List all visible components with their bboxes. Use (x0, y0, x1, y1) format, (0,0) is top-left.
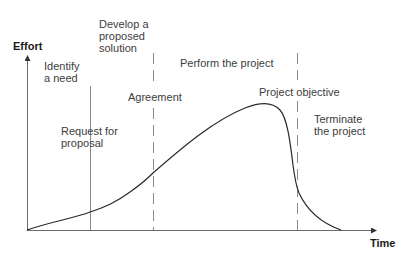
phase-develop-solution: Develop a proposed solution (99, 18, 149, 54)
phase-identify-need: Identify a need (44, 60, 79, 84)
phase-perform-project: Perform the project (180, 57, 274, 69)
milestone-project-objective: Project objective (259, 86, 340, 98)
milestone-agreement: Agreement (128, 91, 182, 103)
milestone-request-for-proposal: Request for proposal (61, 125, 118, 149)
phase-terminate-project: Terminate the project (314, 113, 365, 137)
effort-curve (27, 103, 341, 230)
y-axis-label: Effort (13, 40, 42, 52)
x-axis-label: Time (370, 237, 395, 249)
effort-vs-time-diagram: Effort Time Identify a need Develop a pr… (0, 0, 408, 258)
